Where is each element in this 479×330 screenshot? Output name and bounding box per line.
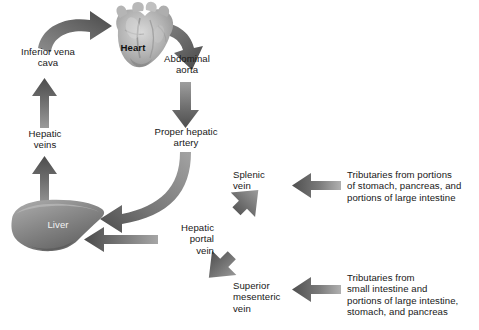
label-tributaries-upper: Tributaries from portions of stomach, pa… bbox=[347, 169, 477, 203]
label-tributaries-lower: Tributaries from small intestine and por… bbox=[347, 272, 479, 318]
arrow-hepatic-veins-to-ivc bbox=[32, 78, 57, 128]
label-liver: Liver bbox=[34, 219, 82, 230]
label-abdominal-aorta: Abdominal aorta bbox=[150, 53, 224, 76]
label-hepatic-veins: Hepatic veins bbox=[8, 128, 82, 151]
label-inferior-vena-cava: Inferior vena cava bbox=[2, 46, 94, 69]
diagram-canvas: Inferior vena cava Heart Abdominal aorta… bbox=[0, 0, 479, 330]
label-heart: Heart bbox=[110, 42, 156, 53]
arrow-tributaries-upper-to-splenic bbox=[292, 173, 341, 198]
label-splenic-vein: Splenic vein bbox=[233, 169, 297, 192]
label-proper-hepatic-artery: Proper hepatic artery bbox=[137, 126, 235, 149]
arrow-aorta-to-hepatic-artery bbox=[172, 82, 199, 128]
label-superior-mesenteric-vein: Superior mesenteric vein bbox=[233, 280, 311, 314]
label-hepatic-portal-vein: Hepatic portal vein bbox=[152, 222, 214, 256]
arrow-hepatic-artery-to-liver bbox=[100, 152, 191, 233]
arrow-splenic-to-portal bbox=[231, 190, 259, 217]
